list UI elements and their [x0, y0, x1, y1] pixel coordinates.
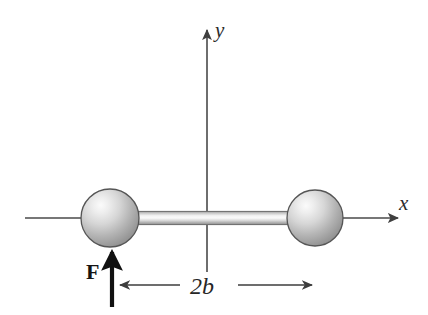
connecting-rod — [126, 211, 298, 225]
rod-body — [126, 211, 298, 225]
left-sphere — [81, 189, 139, 247]
x-axis-label: x — [398, 191, 409, 215]
right-sphere — [287, 190, 343, 246]
force-label: F — [86, 259, 99, 284]
physics-figure-canvas: x y F 2b — [0, 0, 428, 315]
y-axis-group: y — [207, 18, 225, 272]
y-axis-label: y — [213, 18, 225, 42]
dimension-label: 2b — [190, 273, 214, 299]
figure-svg: x y F 2b — [0, 0, 428, 315]
force-vector-group: F — [86, 252, 112, 307]
dimension-2b-group: 2b — [120, 273, 312, 299]
